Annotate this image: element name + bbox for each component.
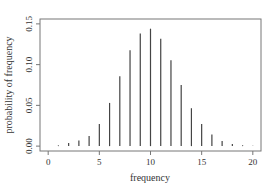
x-tick-label: 10 xyxy=(146,157,156,167)
x-tick-label: 15 xyxy=(197,157,207,167)
y-axis: 0.000.050.100.15 xyxy=(24,16,40,154)
x-tick-label: 20 xyxy=(248,157,258,167)
y-tick-label: 0.00 xyxy=(24,138,34,154)
bar-series xyxy=(48,29,253,146)
x-tick-label: 5 xyxy=(97,157,102,167)
y-axis-title: probability of frequency xyxy=(3,36,14,133)
y-tick-label: 0.05 xyxy=(24,97,34,113)
frequency-probability-chart: 05101520 0.000.050.100.15 frequency prob… xyxy=(0,0,271,189)
x-axis-title: frequency xyxy=(130,172,170,183)
x-tick-label: 0 xyxy=(46,157,51,167)
x-axis: 05101520 xyxy=(46,151,258,167)
y-tick-label: 0.15 xyxy=(24,16,34,32)
y-tick-label: 0.10 xyxy=(24,56,34,72)
